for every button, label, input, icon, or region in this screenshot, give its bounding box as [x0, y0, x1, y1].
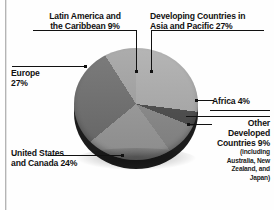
- slice-label-united-states-line1: United States: [11, 148, 123, 158]
- leader-dot-developing-asia: [150, 70, 153, 73]
- slice-note-other-developed-line4: Japan): [186, 174, 270, 182]
- slice-label-africa-line1: Africa 4%: [212, 96, 270, 106]
- page-edge-rule-light: [6, 0, 7, 210]
- chart-page: Latin America and the Caribbean 9% Devel…: [0, 0, 274, 210]
- leader-line-europe: [12, 66, 86, 67]
- slice-label-united-states-line2: and Canada 24%: [11, 158, 123, 168]
- slice-label-developing-asia-line1: Developing Countries in: [150, 11, 268, 21]
- slice-label-europe: Europe 27%: [11, 68, 73, 88]
- slice-label-other-developed-line3: Countries 9%: [186, 138, 270, 148]
- slice-label-other-developed: Other Developed Countries 9% (including …: [186, 118, 270, 182]
- slice-note-other-developed-line1: (including: [186, 148, 270, 156]
- leader-line-latin-america: [136, 30, 137, 71]
- slice-label-latin-america-line2: the Caribbean 9%: [33, 21, 137, 31]
- slice-label-united-states: United States and Canada 24%: [11, 148, 123, 168]
- leader-rule-africa: [210, 110, 270, 111]
- slice-label-other-developed-line2: Developed: [186, 128, 270, 138]
- leader-line-developing-asia: [151, 30, 152, 71]
- slice-label-latin-america-line1: Latin America and: [33, 11, 137, 21]
- slice-label-africa: Africa 4%: [212, 96, 270, 106]
- slice-label-latin-america: Latin America and the Caribbean 9%: [33, 11, 137, 31]
- leader-dot-latin-america: [135, 70, 138, 73]
- slice-label-other-developed-line1: Other: [186, 118, 270, 128]
- slice-label-europe-line1: Europe: [11, 68, 73, 78]
- slice-label-developing-asia: Developing Countries in Asia and Pacific…: [150, 11, 268, 31]
- slice-label-europe-line2: 27%: [11, 78, 73, 88]
- slice-note-other-developed-line3: Zealand, and: [186, 165, 270, 173]
- leader-rule-other-developed: [186, 116, 270, 117]
- leader-dot-africa: [195, 99, 198, 102]
- leader-dot-europe: [84, 65, 87, 68]
- slice-note-other-developed-line2: Australia, New: [186, 157, 270, 165]
- slice-label-developing-asia-line2: Asia and Pacific 27%: [150, 21, 268, 31]
